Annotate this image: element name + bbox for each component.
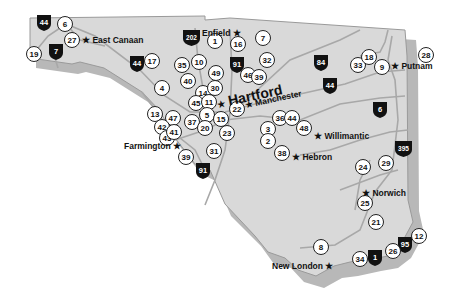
map-land: [30, 16, 413, 276]
location-marker[interactable]: 39: [251, 69, 267, 85]
star-icon: ★: [362, 188, 370, 198]
location-marker[interactable]: 10: [191, 54, 207, 70]
highway-shield-6[interactable]: 6: [372, 101, 388, 119]
location-marker[interactable]: 49: [208, 65, 224, 81]
star-icon: ★: [216, 99, 226, 110]
location-marker[interactable]: 12: [411, 228, 427, 244]
city-label-farmington[interactable]: Farmington ★: [124, 142, 181, 151]
location-marker[interactable]: 21: [368, 214, 384, 230]
location-marker[interactable]: 38: [274, 145, 290, 161]
star-icon: ★: [325, 261, 333, 271]
location-marker[interactable]: 6: [57, 16, 73, 32]
location-marker[interactable]: 20: [197, 120, 213, 136]
star-icon: ★: [233, 28, 241, 38]
location-marker[interactable]: 26: [385, 243, 401, 259]
location-marker[interactable]: 35: [174, 57, 190, 73]
city-label-new-london[interactable]: New London ★: [272, 262, 333, 271]
highway-shield-7[interactable]: 7: [48, 43, 64, 61]
highway-shield-1[interactable]: 1: [367, 249, 383, 267]
city-label-east-canaan[interactable]: ★ East Canaan: [82, 36, 143, 45]
location-marker[interactable]: 16: [230, 36, 246, 52]
location-marker[interactable]: 48: [296, 120, 312, 136]
location-marker[interactable]: 27: [64, 32, 80, 48]
location-marker[interactable]: 32: [259, 52, 275, 68]
highway-shield-84[interactable]: 84: [313, 54, 329, 72]
location-marker[interactable]: 9: [374, 59, 390, 75]
highway-shield-202[interactable]: 202: [182, 29, 201, 47]
location-marker[interactable]: 7: [255, 30, 271, 46]
location-marker[interactable]: 23: [219, 125, 235, 141]
star-icon: ★: [173, 141, 181, 151]
location-marker[interactable]: 19: [26, 46, 42, 62]
star-icon: ★: [82, 35, 90, 45]
highway-shield-44-east[interactable]: 44: [322, 77, 338, 95]
city-label-willimantic[interactable]: ★ Willimantic: [314, 132, 369, 141]
star-icon: ★: [314, 131, 322, 141]
location-marker[interactable]: 29: [378, 155, 394, 171]
location-marker[interactable]: 4: [154, 80, 170, 96]
city-label-enfield[interactable]: Enfield ★: [202, 29, 241, 38]
city-label-hebron[interactable]: ★ Hebron: [292, 153, 332, 162]
location-marker[interactable]: 17: [144, 53, 160, 69]
location-marker[interactable]: 2: [260, 133, 276, 149]
location-marker[interactable]: 34: [352, 251, 368, 267]
location-marker[interactable]: 41: [166, 124, 182, 140]
location-marker[interactable]: 31: [206, 143, 222, 159]
highway-shield-91-south[interactable]: 91: [195, 162, 211, 180]
city-label-norwich[interactable]: ★ Norwich: [362, 189, 406, 198]
location-marker[interactable]: 8: [313, 239, 329, 255]
location-marker[interactable]: 39: [178, 149, 194, 165]
highway-shield-44[interactable]: 44: [36, 14, 52, 32]
highway-shield-395[interactable]: 395: [394, 140, 413, 158]
highway-shield-44-west[interactable]: 44: [129, 55, 145, 73]
star-icon: ★: [244, 99, 254, 110]
location-marker[interactable]: 24: [355, 159, 371, 175]
star-icon: ★: [391, 61, 399, 71]
location-marker[interactable]: 40: [180, 73, 196, 89]
city-label-putnam[interactable]: ★ Putnam: [391, 62, 433, 71]
star-icon: ★: [292, 152, 300, 162]
